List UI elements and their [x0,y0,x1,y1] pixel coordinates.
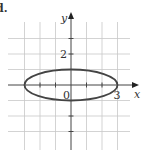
x-axis-label: x [134,88,141,101]
y-axis-arrow-icon [68,12,74,19]
x-tick-label: 3 [114,89,121,102]
part-label: d. [0,2,8,15]
plot: d. 0 3 2 x y [0,0,144,154]
y-tick-label: 2 [60,48,67,61]
y-axis-label: y [60,12,68,25]
origin-label: 0 [63,89,70,102]
axes [8,12,139,150]
grid [8,22,130,150]
